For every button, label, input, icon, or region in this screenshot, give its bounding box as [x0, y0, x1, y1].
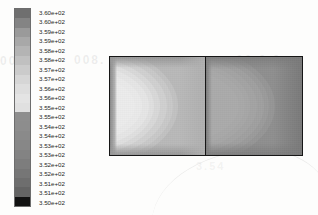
contour-band-r4	[206, 57, 257, 155]
contour-band-r3	[206, 57, 264, 155]
contour-band-l1	[110, 57, 178, 155]
colorbar-tick-3: 3.59e+02	[39, 37, 65, 44]
colorbar-tick-0: 3.60e+02	[39, 9, 65, 16]
colorbar-tick-19: 3.51e+02	[39, 189, 65, 196]
colorbar-tick-1: 3.60e+02	[39, 18, 65, 25]
colorbar-tick-11: 3.55e+02	[39, 113, 65, 120]
contour-wall-shading-right	[206, 57, 212, 155]
contour-top-shading-right	[206, 57, 302, 69]
colorbar-tick-7: 3.57e+02	[39, 75, 65, 82]
contour-wall-shading-left	[110, 57, 117, 155]
contour-band-l4	[110, 57, 160, 155]
contour-band-l2	[110, 57, 173, 155]
contour-band-l6	[110, 62, 149, 150]
contour-bottom-shading-right	[206, 143, 302, 155]
colorbar-tick-13: 3.54e+02	[39, 132, 65, 139]
scan-grain-left	[110, 57, 205, 155]
contour-band-l5	[110, 57, 154, 155]
colorbar-tick-2: 3.59e+02	[39, 28, 65, 35]
scan-grain-right	[206, 57, 302, 155]
contour-band-l7	[110, 68, 142, 144]
colorbar-tick-17: 3.52e+02	[39, 170, 65, 177]
contour-band-l8	[110, 75, 135, 138]
colorbar-tick-16: 3.52e+02	[39, 161, 65, 168]
contour-panel-left	[110, 57, 206, 155]
contour-band-r6	[206, 62, 245, 150]
colorbar-tick-5: 3.58e+02	[39, 56, 65, 63]
colorbar-tick-9: 3.56e+02	[39, 94, 65, 101]
contour-top-shading-left	[110, 57, 205, 68]
contour-plot	[109, 56, 303, 156]
colorbar-tick-6: 3.57e+02	[39, 66, 65, 73]
contour-band-r2	[206, 57, 269, 155]
contour-panel-right	[206, 57, 302, 155]
colorbar-tick-4: 3.58e+02	[39, 47, 65, 54]
contour-right-shading-left	[180, 57, 205, 155]
colorbar-tick-15: 3.53e+02	[39, 151, 65, 158]
contour-band-r5	[206, 57, 250, 155]
colorbar-tick-12: 3.54e+02	[39, 123, 65, 130]
temperature-colorbar	[14, 8, 31, 207]
colorbar-tick-labels: 3.60e+02 3.60e+02 3.59e+02 3.59e+02 3.58…	[39, 5, 87, 210]
contour-right-shading-right	[273, 57, 302, 155]
contour-band-l3	[110, 57, 167, 155]
contour-band-r1	[206, 57, 275, 155]
colorbar-tick-8: 3.56e+02	[39, 85, 65, 92]
colorbar-tick-18: 3.51e+02	[39, 180, 65, 187]
colorbar-tick-14: 3.53e+02	[39, 142, 65, 149]
ghost-fragment-low: 3.54	[196, 160, 225, 172]
colorbar-tick-20: 3.50e+02	[39, 199, 65, 206]
contour-bottom-shading-left	[110, 144, 205, 155]
colorbar-tick-10: 3.55e+02	[39, 104, 65, 111]
contour-band-r7	[206, 68, 239, 144]
